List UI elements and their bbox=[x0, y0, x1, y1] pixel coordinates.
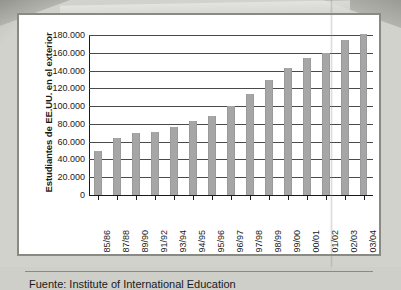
bar bbox=[284, 68, 292, 195]
x-tick-label: 87/88 bbox=[121, 230, 131, 270]
x-tick-label: 98/99 bbox=[273, 230, 283, 270]
x-tick-label: 97/98 bbox=[254, 230, 264, 270]
y-tick-label: 160.000 bbox=[33, 48, 85, 58]
y-tick-label: 40.000 bbox=[33, 154, 85, 164]
x-tick-label: 85/86 bbox=[102, 230, 112, 270]
source-note: Fuente: Institute of International Educa… bbox=[29, 278, 236, 290]
y-tick-label: 120.000 bbox=[33, 83, 85, 93]
x-tick-mark bbox=[136, 196, 137, 200]
x-tick-mark bbox=[231, 196, 232, 200]
gridline bbox=[89, 53, 373, 54]
x-tick-mark bbox=[288, 196, 289, 200]
bar bbox=[208, 116, 216, 195]
x-tick-label: 00/01 bbox=[311, 230, 321, 270]
gridline bbox=[89, 35, 373, 36]
y-tick-label: 60.000 bbox=[33, 137, 85, 147]
y-tick-label: 180.000 bbox=[33, 30, 85, 40]
x-tick-mark bbox=[307, 196, 308, 200]
x-tick-label: 91/92 bbox=[159, 230, 169, 270]
x-tick-label: 03/04 bbox=[368, 230, 378, 270]
bar bbox=[132, 133, 140, 195]
x-tick-mark bbox=[345, 196, 346, 200]
gridline bbox=[89, 71, 373, 72]
bar bbox=[151, 132, 159, 195]
x-tick-mark bbox=[269, 196, 270, 200]
x-tick-mark bbox=[193, 196, 194, 200]
bar bbox=[170, 127, 178, 195]
plot-area: Estudiantes de EE.UU. en el exterior 020… bbox=[19, 15, 379, 226]
bar bbox=[303, 58, 311, 195]
y-axis-line bbox=[89, 35, 90, 196]
bar bbox=[189, 121, 197, 195]
x-tick-label: 95/96 bbox=[216, 230, 226, 270]
bar bbox=[246, 94, 254, 195]
x-tick-label: 02/03 bbox=[349, 230, 359, 270]
bar bbox=[360, 34, 368, 195]
x-tick-label: 96/97 bbox=[235, 230, 245, 270]
x-axis-tick-labels: 85/8687/8889/9091/9293/9494/9595/9696/97… bbox=[89, 228, 373, 268]
bar bbox=[265, 80, 273, 195]
x-tick-mark bbox=[98, 196, 99, 200]
bar bbox=[94, 151, 102, 195]
footer-divider bbox=[25, 271, 373, 272]
x-tick-mark bbox=[326, 196, 327, 200]
y-tick-label: 80.000 bbox=[33, 119, 85, 129]
x-tick-label: 01/02 bbox=[330, 230, 340, 270]
x-tick-mark bbox=[117, 196, 118, 200]
bar bbox=[113, 138, 121, 195]
bar bbox=[341, 40, 349, 195]
y-tick-label: 20.000 bbox=[33, 172, 85, 182]
chart-grid bbox=[89, 15, 373, 226]
y-tick-label: 0 bbox=[33, 190, 85, 200]
y-axis-tick-labels: 020.00040.00060.00080.000100.000120.0001… bbox=[33, 15, 85, 226]
x-tick-label: 93/94 bbox=[178, 230, 188, 270]
x-tick-label: 89/90 bbox=[140, 230, 150, 270]
x-tick-label: 99/00 bbox=[292, 230, 302, 270]
chart-panel: Estudiantes de EE.UU. en el exterior 020… bbox=[17, 13, 381, 256]
y-tick-label: 140.000 bbox=[33, 66, 85, 76]
y-tick-label: 100.000 bbox=[33, 101, 85, 111]
x-tick-mark bbox=[155, 196, 156, 200]
x-tick-label: 94/95 bbox=[197, 230, 207, 270]
x-tick-mark bbox=[212, 196, 213, 200]
bar bbox=[322, 53, 330, 195]
x-tick-mark bbox=[174, 196, 175, 200]
bar bbox=[227, 106, 235, 195]
gridline bbox=[89, 88, 373, 89]
x-tick-mark bbox=[250, 196, 251, 200]
x-tick-mark bbox=[364, 196, 365, 200]
